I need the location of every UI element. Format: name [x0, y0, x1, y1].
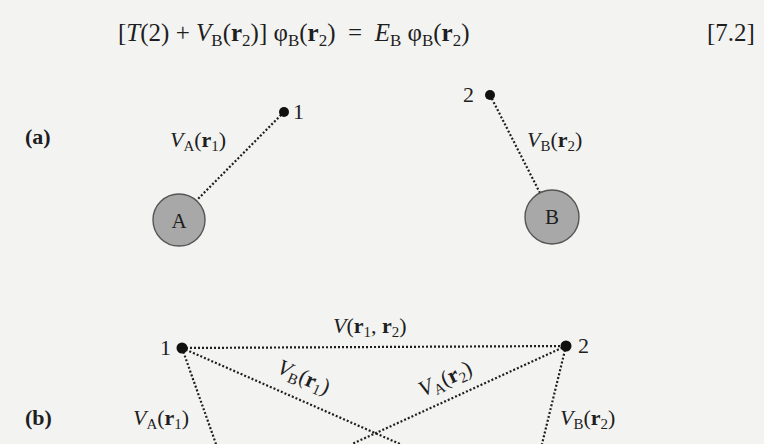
diagram-graphics — [0, 0, 764, 444]
electron-2-dot-a — [485, 90, 495, 100]
potential-VB-r2-label-a: VB(r2) — [527, 127, 582, 153]
line-VA-r1-a — [196, 112, 284, 201]
electron-2-label-a: 2 — [463, 82, 474, 108]
electron-2-dot-b — [561, 341, 572, 352]
nucleus-B-label: B — [537, 205, 567, 229]
line-V-r1-r2 — [182, 346, 566, 348]
electron-1-label-b: 1 — [160, 335, 171, 361]
textbook-page: [T(2) + VB(r2)] φB(r2) = EB φB(r2) [7.2]… — [0, 0, 764, 444]
potential-VA-r1-label-a: VA(r1) — [170, 127, 226, 153]
potential-VB-r2-label-b: VB(r2) — [560, 405, 615, 431]
panel-a-label: (a) — [25, 124, 51, 150]
nucleus-A-label: A — [164, 209, 194, 233]
electron-2-label-b: 2 — [578, 333, 589, 359]
electron-1-dot-a — [279, 107, 289, 117]
interaction-V-r1-r2-label: V(r1, r2) — [333, 313, 407, 339]
panel-b-label: (b) — [25, 405, 52, 431]
electron-1-label-a: 1 — [293, 99, 304, 125]
potential-VA-r1-label-b: VA(r1) — [133, 405, 189, 431]
electron-1-dot-b — [177, 343, 188, 354]
